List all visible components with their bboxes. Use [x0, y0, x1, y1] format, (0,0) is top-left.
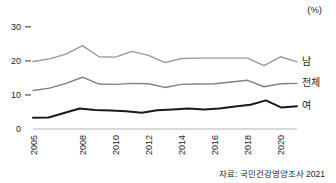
series-line-2: [33, 100, 297, 117]
series-group: [33, 46, 297, 118]
x-tick-label: 2008: [78, 135, 88, 155]
y-tick-label: 30: [11, 22, 21, 32]
source-note: 자료: 국민건강영양조사 2021: [219, 167, 325, 179]
y-tick-label: 20: [11, 56, 21, 66]
x-tick-label: 2014: [177, 135, 187, 155]
y-axis-group: 0102030: [11, 22, 31, 134]
y-tick-label: 10: [11, 90, 21, 100]
chart-container: (%) 0102030 2005200820102012201420162018…: [0, 0, 336, 183]
x-axis-group: 20052008201020122014201620182020: [29, 129, 298, 155]
x-tick-label: 2016: [210, 135, 220, 155]
series-label-1: 전체: [302, 77, 320, 88]
x-tick-label: 2010: [111, 135, 121, 155]
series-line-1: [33, 77, 297, 90]
x-tick-label: 2018: [243, 135, 253, 155]
series-label-0: 남: [302, 56, 311, 67]
x-tick-label: 2020: [276, 135, 286, 155]
y-tick-label: 0: [16, 124, 21, 134]
x-tick-label: 2005: [29, 135, 39, 155]
line-chart-plot: 0102030 20052008201020122014201620182020…: [0, 0, 336, 183]
x-tick-label: 2012: [144, 135, 154, 155]
series-label-group: 남전체여: [302, 56, 320, 111]
series-label-2: 여: [302, 100, 311, 111]
series-line-0: [33, 46, 297, 66]
